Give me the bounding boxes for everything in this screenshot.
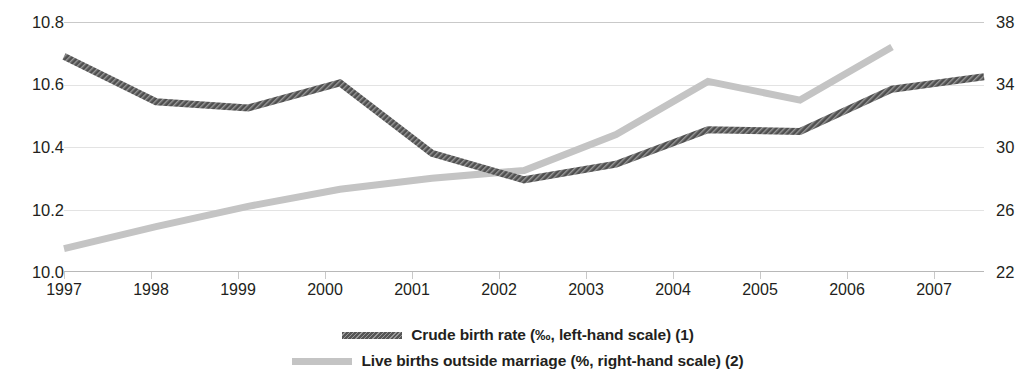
y-axis-left-tick-10-6: 10.6 [4, 76, 64, 93]
x-axis-label-1998: 1998 [111, 282, 191, 298]
x-axis-label-2006: 2006 [807, 282, 887, 298]
x-axis-label-1999: 1999 [198, 282, 278, 298]
x-axis-label-2005: 2005 [720, 282, 800, 298]
x-tick-1997 [64, 272, 65, 279]
chart-container: 10.8 10.6 10.4 10.2 10.0 38 34 30 26 22 [0, 0, 1036, 381]
legend-swatch-live-births-outside-marriage [292, 358, 352, 365]
series-line-live-births-outside-marriage [64, 47, 892, 249]
legend-item-crude-birth-rate: Crude birth rate (‰, left-hand scale) (1… [0, 322, 1036, 348]
x-axis-label-2003: 2003 [546, 282, 626, 298]
y-axis-right-tick-38: 38 [996, 14, 1036, 31]
x-tick-2001 [412, 272, 413, 279]
legend-swatch-crude-birth-rate [342, 332, 402, 339]
y-axis-right-tick-34: 34 [996, 76, 1036, 93]
plot-area [64, 22, 984, 272]
x-tick-2004 [673, 272, 674, 279]
y-axis-left-tick-10-4: 10.4 [4, 139, 64, 156]
x-tick-2000 [325, 272, 326, 279]
legend-label-crude-birth-rate: Crude birth rate (‰, left-hand scale) (1… [411, 326, 694, 344]
chart-legend: Crude birth rate (‰, left-hand scale) (1… [0, 322, 1036, 374]
x-tick-2003 [586, 272, 587, 279]
x-axis-label-2000: 2000 [285, 282, 365, 298]
x-tick-2007 [934, 272, 935, 279]
x-axis-label-2002: 2002 [459, 282, 539, 298]
y-axis-left-tick-10-0: 10.0 [4, 264, 64, 281]
x-tick-2006 [847, 272, 848, 279]
x-axis-label-2007: 2007 [894, 282, 974, 298]
y-axis-right-tick-22: 22 [996, 264, 1036, 281]
y-axis-right-tick-26: 26 [996, 202, 1036, 219]
x-tick-2005 [760, 272, 761, 279]
x-tick-1999 [238, 272, 239, 279]
series-plot [64, 22, 984, 272]
x-axis-label-2001: 2001 [372, 282, 452, 298]
legend-item-live-births-outside-marriage: Live births outside marriage (%, right-h… [0, 348, 1036, 374]
y-axis-right-tick-30: 30 [996, 139, 1036, 156]
x-axis-label-2004: 2004 [633, 282, 713, 298]
y-axis-left-tick-10-2: 10.2 [4, 202, 64, 219]
y-axis-left-tick-10-8: 10.8 [4, 14, 64, 31]
x-tick-1998 [151, 272, 152, 279]
x-axis-label-1997: 1997 [24, 282, 104, 298]
x-tick-2002 [499, 272, 500, 279]
legend-label-live-births-outside-marriage: Live births outside marriage (%, right-h… [361, 352, 743, 370]
